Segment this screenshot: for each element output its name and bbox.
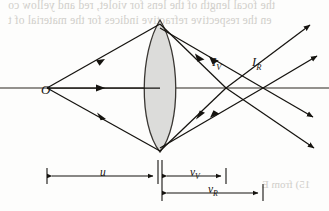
- red-ray-upper-after-focus: [263, 88, 313, 117]
- biconvex-lens: [144, 20, 176, 152]
- red-ray-lower-after-focus: [263, 56, 317, 88]
- incident-ray-arrowheads: [96, 59, 106, 120]
- ray-diagram-canvas: [0, 0, 329, 211]
- red-ray-arrowheads: [209, 56, 220, 118]
- dimension-v-red: [162, 184, 263, 201]
- violet-ray-upper-after-focus: [226, 88, 314, 148]
- dimension-v-violet: [162, 160, 226, 184]
- violet-ray-lower-after-focus: [226, 25, 310, 88]
- dimension-u: [47, 160, 158, 184]
- incident-ray-upper: [47, 24, 160, 88]
